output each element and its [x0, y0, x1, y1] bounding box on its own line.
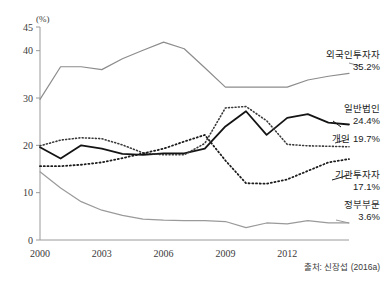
source-attribution: 출처: 신장섭 (2016a) [304, 262, 381, 272]
x-tick-label: 2003 [92, 248, 112, 259]
annotation-government-value: 3.6% [358, 211, 380, 222]
series-line-일반법인 [40, 111, 349, 158]
series-line-개인 [40, 107, 349, 155]
annotation-government-label: 정부부문 [344, 199, 380, 210]
y-tick-label: 40 [23, 45, 33, 56]
y-tick-label: 20 [23, 140, 33, 151]
x-tick-label: 2012 [277, 248, 297, 259]
series-annotation-corporate: 일반법인 24.4% [344, 103, 381, 126]
annotation-individual-label: 개인 19.7% [332, 133, 380, 144]
x-tick-label: 2006 [154, 248, 174, 259]
series-annotation-institutional: 기관투자자 17.1% [335, 169, 381, 192]
chart-plot-area: 01020304045 20002003200620092012 [23, 22, 360, 260]
data-series-group [40, 42, 360, 228]
series-annotation-individual: 개인 19.7% [332, 133, 380, 144]
x-tick-label: 2009 [215, 248, 235, 259]
x-tick-label: 2000 [30, 248, 50, 259]
line-chart-svg: 01020304045 20002003200620092012 (%) 외국인… [0, 0, 386, 286]
y-tick-label: 30 [23, 93, 33, 104]
annotation-institutional-value: 17.1% [353, 181, 380, 192]
y-tick-label: 0 [28, 235, 33, 246]
annotation-corporate-value: 24.4% [353, 115, 380, 126]
annotation-foreign-label: 외국인투자자 [326, 49, 380, 60]
series-annotation-government: 정부부문 3.6% [344, 199, 381, 222]
y-tick-label: 10 [23, 187, 33, 198]
annotation-foreign-value: 35.2% [353, 61, 380, 72]
x-axis-ticks: 20002003200620092012 [30, 248, 297, 259]
series-annotation-foreign: 외국인투자자 35.2% [326, 49, 381, 72]
y-tick-label: 45 [23, 22, 33, 33]
y-axis-unit-label: (%) [36, 14, 50, 24]
series-line-기관투자자 [40, 135, 349, 184]
annotation-institutional-label: 기관투자자 [335, 169, 380, 180]
series-line-외국인투자자 [40, 42, 349, 99]
y-axis-ticks: 01020304045 [23, 22, 40, 246]
annotation-corporate-label: 일반법인 [344, 103, 380, 114]
series-line-정부부문 [40, 172, 349, 228]
chart-container: 01020304045 20002003200620092012 (%) 외국인… [0, 0, 386, 286]
